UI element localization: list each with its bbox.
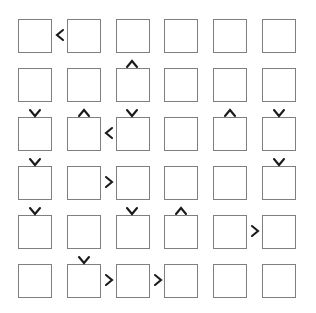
grid-cell-r2c3[interactable] <box>116 68 150 102</box>
chevron-right-icon <box>151 273 165 287</box>
grid-cell-r5c3[interactable] <box>116 215 150 249</box>
diagram-canvas <box>0 0 316 313</box>
grid-cell-r3c2[interactable] <box>67 117 101 151</box>
grid-cell-r3c5[interactable] <box>213 117 247 151</box>
grid-cell-r1c6[interactable] <box>262 19 296 53</box>
grid-cell-r3c3[interactable] <box>116 117 150 151</box>
grid-cell-r1c1[interactable] <box>18 19 52 53</box>
grid-cell-r2c1[interactable] <box>18 68 52 102</box>
chevron-down-icon <box>28 155 42 169</box>
grid-cell-r2c6[interactable] <box>262 68 296 102</box>
chevron-left-icon <box>102 126 116 140</box>
chevron-down-icon <box>272 106 286 120</box>
grid-cell-r5c1[interactable] <box>18 215 52 249</box>
grid-cell-r2c5[interactable] <box>213 68 247 102</box>
chevron-down-icon <box>125 106 139 120</box>
grid-cell-r6c4[interactable] <box>164 264 198 298</box>
grid-cell-r6c3[interactable] <box>116 264 150 298</box>
grid-cell-r2c2[interactable] <box>67 68 101 102</box>
chevron-right-icon <box>102 273 116 287</box>
grid-cell-r4c3[interactable] <box>116 166 150 200</box>
grid-cell-r4c2[interactable] <box>67 166 101 200</box>
chevron-down-icon <box>77 253 91 267</box>
chevron-right-icon <box>102 175 116 189</box>
grid-cell-r5c4[interactable] <box>164 215 198 249</box>
grid-cell-r5c5[interactable] <box>213 215 247 249</box>
chevron-up-icon <box>125 57 139 71</box>
grid-cell-r6c5[interactable] <box>213 264 247 298</box>
chevron-up-icon <box>77 106 91 120</box>
grid-cell-r4c1[interactable] <box>18 166 52 200</box>
chevron-left-icon <box>53 28 67 42</box>
chevron-down-icon <box>28 106 42 120</box>
grid-cell-r4c6[interactable] <box>262 166 296 200</box>
grid-cell-r3c6[interactable] <box>262 117 296 151</box>
grid-cell-r5c6[interactable] <box>262 215 296 249</box>
grid-cell-r6c1[interactable] <box>18 264 52 298</box>
chevron-down-icon <box>272 155 286 169</box>
grid-cell-r1c4[interactable] <box>164 19 198 53</box>
grid-cell-r4c5[interactable] <box>213 166 247 200</box>
chevron-right-icon <box>248 224 262 238</box>
chevron-up-icon <box>223 106 237 120</box>
grid-cell-r1c2[interactable] <box>67 19 101 53</box>
grid-cell-r2c4[interactable] <box>164 68 198 102</box>
grid-cell-r1c5[interactable] <box>213 19 247 53</box>
chevron-up-icon <box>174 204 188 218</box>
grid-cell-r3c1[interactable] <box>18 117 52 151</box>
chevron-down-icon <box>125 204 139 218</box>
chevron-down-icon <box>28 204 42 218</box>
grid-cell-r5c2[interactable] <box>67 215 101 249</box>
grid-cell-r1c3[interactable] <box>116 19 150 53</box>
grid-cell-r6c2[interactable] <box>67 264 101 298</box>
grid-cell-r3c4[interactable] <box>164 117 198 151</box>
grid-cell-r6c6[interactable] <box>262 264 296 298</box>
grid-cell-r4c4[interactable] <box>164 166 198 200</box>
